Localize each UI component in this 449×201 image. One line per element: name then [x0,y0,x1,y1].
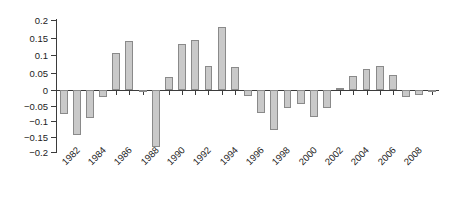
bar-chart: 0.20.150.10.050−0.05−0.1−0.15−0.2 198219… [0,0,449,201]
bar [349,76,357,90]
bar [284,90,292,108]
bar [73,90,81,135]
y-tick-label: 0.15 [0,33,48,43]
bar [323,90,331,108]
bar [310,90,318,117]
y-tick-label: 0.05 [0,68,48,78]
y-tick-mark [51,55,56,56]
bar [205,66,213,90]
bar [191,40,199,90]
y-tick-mark [51,38,56,39]
x-tick-mark [222,91,223,95]
bar [336,88,344,90]
x-tick-mark [116,91,117,95]
x-tick-mark [129,91,130,95]
y-tick-label: 0.1 [0,51,48,61]
x-tick-mark [340,91,341,95]
bar [139,90,147,92]
bar [270,90,278,130]
bar [99,90,107,97]
x-tick-mark [367,91,368,95]
bar [415,90,423,95]
y-tick-mark [51,20,56,21]
bar [112,53,120,90]
bar [218,27,226,90]
y-tick-label: −0.15 [0,132,48,142]
bar [257,90,265,113]
y-tick-mark [51,137,56,138]
bar [363,69,371,90]
x-tick-mark [235,91,236,95]
bar [244,90,252,96]
x-tick-mark [169,91,170,95]
x-tick-mark [393,91,394,95]
bar [297,90,305,104]
y-tick-label: −0.1 [0,117,48,127]
bar [376,66,384,90]
y-tick-label: −0.2 [0,148,48,158]
x-tick-mark [208,91,209,95]
x-tick-mark [195,91,196,95]
y-tick-mark [51,73,56,74]
y-tick-label: 0 [0,86,48,96]
y-tick-mark [51,121,56,122]
x-tick-mark [182,91,183,95]
bar [402,90,410,97]
x-tick-mark [353,91,354,95]
bar [60,90,68,114]
bar [389,75,397,90]
bar [86,90,94,118]
bar [165,77,173,90]
x-tick-mark [380,91,381,95]
y-tick-label: −0.05 [0,101,48,111]
bar [231,67,239,90]
y-tick-mark [51,106,56,107]
bar [178,44,186,90]
bar [125,41,133,90]
bar [152,90,160,147]
y-tick-mark [51,152,56,153]
bar [428,90,436,92]
y-tick-label: 0.2 [0,16,48,26]
